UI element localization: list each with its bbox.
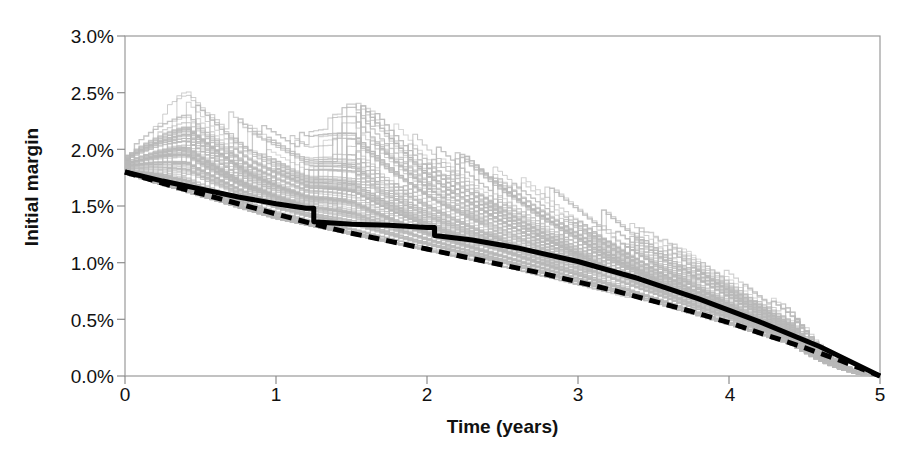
- y-tick-label-2: 2.0%: [22, 140, 114, 162]
- y-tick-label-25: 2.5%: [22, 83, 114, 105]
- y-tick-label-1: 1.0%: [22, 253, 114, 275]
- x-axis-ticks: [125, 376, 880, 384]
- x-tick-label-2: 2: [397, 384, 457, 406]
- x-tick-label-1: 1: [246, 384, 306, 406]
- x-tick-label-5: 5: [850, 384, 906, 406]
- y-tick-label-3: 3.0%: [22, 26, 114, 48]
- y-axis-ticks: [117, 36, 125, 376]
- y-tick-label-15: 1.5%: [22, 196, 114, 218]
- y-tick-label-05: 0.5%: [22, 310, 114, 332]
- x-tick-label-3: 3: [548, 384, 608, 406]
- x-tick-label-0: 0: [95, 384, 155, 406]
- chart-figure: Initial margin Time (years) 3.0% 2.5% 2.…: [0, 0, 906, 464]
- x-tick-label-4: 4: [700, 384, 760, 406]
- x-axis-title: Time (years): [125, 416, 880, 438]
